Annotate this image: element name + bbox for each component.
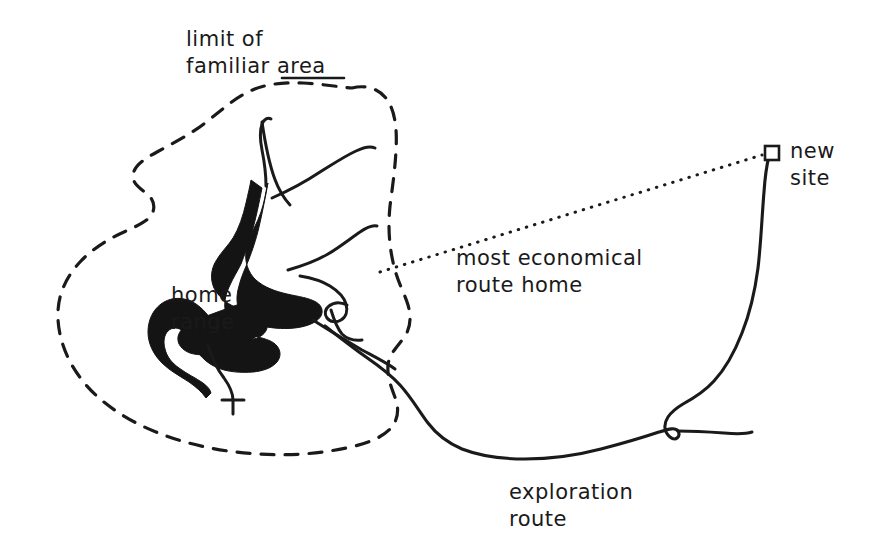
trail-east-upper	[288, 226, 377, 270]
exploration-route-east-branch	[678, 431, 752, 434]
new-site-marker-icon	[765, 146, 779, 160]
label-most-economical-route-home: most economical route home	[456, 245, 643, 299]
navigation-diagram: limit of familiar area home range most e…	[0, 0, 874, 556]
label-new-site: new site	[790, 138, 835, 192]
label-home-range: home range	[171, 282, 235, 336]
label-limit-of-familiar-area: limit of familiar area	[186, 26, 326, 80]
label-exploration-route: exploration route	[509, 479, 633, 533]
diagram-canvas	[0, 0, 874, 556]
trail-northeast	[272, 147, 375, 198]
